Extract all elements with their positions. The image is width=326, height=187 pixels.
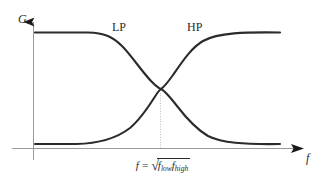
y-axis-label: G bbox=[18, 13, 27, 25]
lowpass-label: LP bbox=[112, 21, 126, 33]
formula-operand-1-subscript: low bbox=[161, 164, 172, 173]
lowpass-curve bbox=[35, 33, 280, 145]
crossover-frequency-formula: f=√flowfhigh bbox=[0, 158, 326, 173]
formula-radical: √flowfhigh bbox=[151, 158, 190, 173]
filter-response-figure: G f LP HP f=√flowfhigh bbox=[0, 0, 326, 187]
highpass-label: HP bbox=[187, 21, 202, 33]
formula-equals: = bbox=[142, 159, 148, 171]
formula-variable: f bbox=[136, 159, 139, 171]
formula-radicand: flowfhigh bbox=[157, 158, 190, 173]
formula-operand-2-subscript: high bbox=[175, 164, 188, 173]
